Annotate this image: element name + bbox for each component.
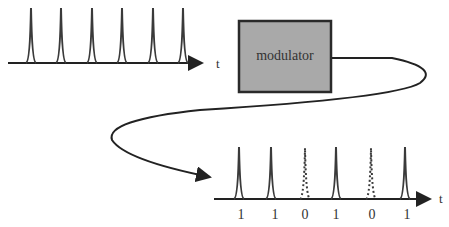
bit-label: 0 [302,207,309,222]
input-pulse-train: t [8,8,220,71]
bit-label: 1 [404,207,411,222]
input-axis-label: t [216,56,220,71]
input-pulse [56,8,66,63]
modulation-diagram: t modulator t 1 1 0 1 0 1 [0,0,449,227]
bit-label: 1 [238,207,245,222]
input-pulse [26,8,36,63]
input-pulse [178,8,188,63]
output-pulse-1 [234,147,244,199]
output-pulse-0-dotted [366,148,376,199]
input-pulse [117,8,127,63]
bit-label: 0 [369,207,376,222]
modulator-block: modulator [239,21,331,92]
output-pulse-0-dotted [300,148,310,199]
bit-label: 1 [333,207,340,222]
output-pulse-1 [400,147,410,199]
output-pulse-1 [331,147,341,199]
output-pulse-1 [266,147,276,199]
modulator-label: modulator [256,48,314,63]
input-pulse [87,8,97,63]
output-pulse-train: t 1 1 0 1 0 1 [214,147,443,222]
input-pulse [148,8,158,63]
bit-label: 1 [272,207,279,222]
output-axis-label: t [439,191,443,206]
